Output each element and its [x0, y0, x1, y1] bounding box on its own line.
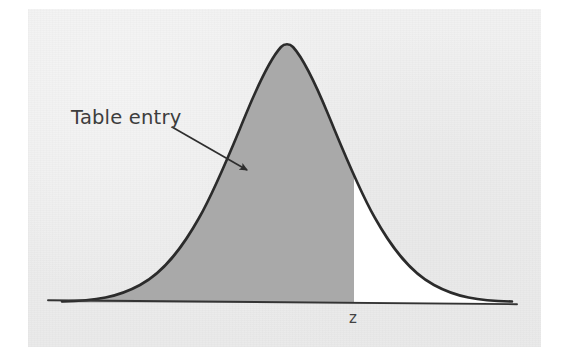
axis-label-z: z: [349, 309, 357, 327]
shaded-probability-area: [62, 44, 512, 302]
table-entry-annotation-label: Table entry: [71, 106, 181, 129]
normal-curve-plot: [0, 0, 574, 347]
figure-stage: Table entry z: [0, 0, 574, 347]
density-fill-group: [62, 44, 512, 302]
